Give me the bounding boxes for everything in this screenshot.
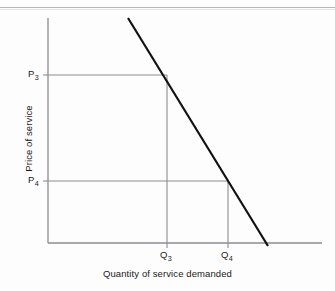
y-tick-label-p4: P4 — [28, 174, 38, 185]
x-tick-label-q4-main: Q — [221, 249, 228, 260]
y-tick-label-p3: P3 — [28, 68, 38, 79]
y-tick-label-p3-main: P — [28, 68, 34, 79]
y-axis-title: Price of service — [23, 59, 34, 219]
x-tick-label-q3: Q3 — [160, 249, 171, 260]
y-tick-label-p4-main: P — [28, 174, 34, 185]
x-tick-label-q3-main: Q — [160, 249, 167, 260]
y-tick-label-p3-sub: 3 — [35, 73, 39, 82]
x-tick-label-q4: Q4 — [221, 249, 232, 260]
x-tick-label-q3-sub: 3 — [168, 254, 172, 263]
demand-curve-line — [128, 18, 268, 246]
y-tick-label-p4-sub: 4 — [35, 179, 39, 188]
figure-screenshot: Quantity of service demanded Price of se… — [0, 0, 335, 291]
x-tick-label-q4-sub: 4 — [229, 254, 233, 263]
x-axis-title: Quantity of service demanded — [0, 268, 335, 279]
demand-curve-figure — [0, 0, 335, 291]
